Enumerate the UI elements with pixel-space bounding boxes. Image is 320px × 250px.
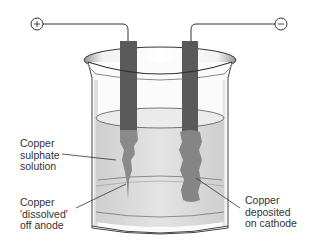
positive-terminal-icon: [31, 18, 43, 30]
negative-terminal-icon: [275, 18, 287, 30]
solution-label: Copper sulphate solution: [20, 138, 60, 173]
cathode-label: Copper deposited on cathode: [245, 195, 297, 230]
copper-sulphate-solution: [96, 108, 224, 227]
positive-wire: [43, 24, 128, 42]
negative-wire: [191, 24, 275, 42]
anode-label: Copper 'dissolved' off anode: [20, 197, 68, 232]
